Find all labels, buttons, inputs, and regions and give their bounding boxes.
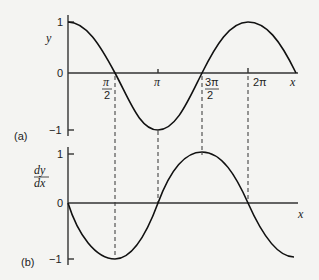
panel-a-ytick-1: 1 [57, 16, 63, 28]
tick-3pi-over-2-num: 3π [205, 76, 219, 88]
tick-pi-over-2-den: 2 [104, 89, 110, 101]
panel-a-ytick-neg1: −1 [49, 124, 62, 136]
panel-b-ytick-0: 0 [57, 197, 63, 209]
panel-a-y-label: y [45, 31, 52, 45]
panel-a-ytick-0: 0 [57, 67, 63, 79]
panel-a-label: (a) [14, 130, 27, 142]
panel-b-x-label: x [297, 207, 304, 221]
panel-b-y-label-num: dy [34, 163, 46, 177]
tick-3pi-over-2-den: 2 [207, 89, 213, 101]
panel-a: 1 0 −1 y x (a) π 2 π 3π 2 2π [14, 15, 298, 142]
panel-a-x-label: x [289, 75, 296, 89]
tick-pi: π [154, 75, 161, 89]
tick-2pi: 2π [253, 76, 267, 88]
panel-b-label: (b) [21, 256, 34, 268]
panel-b-ytick-1: 1 [57, 148, 63, 160]
tick-pi-over-2-num: π [103, 75, 110, 89]
derivative-diagram: 1 0 −1 y x (a) π 2 π 3π 2 2π 1 0 −1 dy [0, 0, 319, 280]
panel-b: 1 0 −1 dy dx x (b) [21, 147, 304, 268]
neg-sin-curve [68, 152, 294, 259]
panel-b-y-label-den: dx [34, 176, 46, 190]
panel-b-ytick-neg1: −1 [49, 253, 62, 265]
